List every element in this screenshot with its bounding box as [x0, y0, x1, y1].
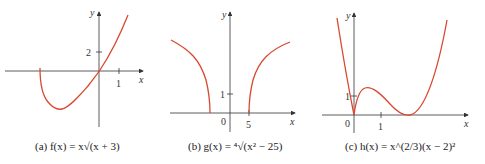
curve-h	[337, 18, 447, 115]
panel-a-graph: 2 1 x y	[5, 7, 144, 127]
tick-label-x: 1	[116, 78, 121, 89]
curve-g-right	[249, 42, 290, 113]
tick-label-y: 1	[220, 89, 225, 100]
tick-label-x: 5	[246, 119, 251, 130]
panel-b-graph: 1 0 5 x y	[170, 9, 295, 132]
curve-f	[40, 15, 128, 109]
caption-c: (c) h(x) = x^(2/3)(x − 2)²	[345, 140, 455, 152]
tick-label-y: 1	[345, 91, 350, 102]
tick-label-x: 1	[378, 121, 383, 132]
axis-label-x: x	[289, 116, 295, 127]
tick-label-origin: 0	[221, 116, 226, 127]
tick-label-y: 2	[86, 47, 91, 58]
axis-label-x: x	[138, 74, 144, 85]
axis-label-x: x	[463, 118, 469, 129]
curve-g-left	[171, 40, 210, 113]
caption-b: (b) g(x) = ⁴√(x² − 25)	[188, 140, 282, 152]
axis-label-y: y	[89, 7, 95, 18]
axis-label-y: y	[345, 10, 351, 21]
axis-label-y: y	[221, 9, 227, 20]
panel-c-graph: 1 0 1 x y	[322, 10, 469, 133]
tick-label-origin: 0	[345, 118, 350, 129]
caption-a: (a) f(x) = x√(x + 3)	[35, 140, 120, 152]
